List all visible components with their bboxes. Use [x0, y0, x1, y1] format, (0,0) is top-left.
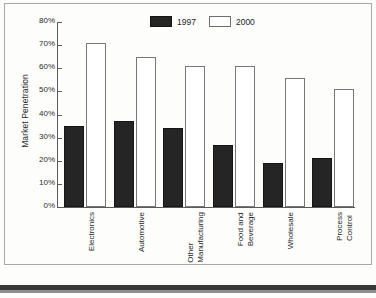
y-axis-tick: 80% [17, 22, 62, 23]
bar-2000-other-manufacturing [185, 66, 205, 207]
y-axis-tick-label: 0% [43, 201, 55, 210]
bar-group [163, 22, 205, 207]
plot-area: 80%70%60%50%40%30%20%10%0% ElectronicsAu… [57, 22, 355, 207]
y-axis-tick: 10% [17, 184, 62, 185]
x-axis-label-line: Control [345, 212, 355, 241]
y-axis-tick: 50% [17, 91, 62, 92]
x-axis-label-other-manufacturing: OtherManufacturing [186, 212, 205, 263]
bar-2000-automotive [136, 57, 156, 207]
y-axis-tick-mark [58, 68, 62, 69]
y-axis-tick-mark [58, 91, 62, 92]
y-axis-tick-mark [58, 45, 62, 46]
y-axis-tick-label: 50% [39, 85, 55, 94]
chart-figure: Market Penetration 1997 2000 80%70%60%50… [0, 0, 376, 298]
x-axis-label-line: Manufacturing [196, 212, 206, 263]
y-axis-tick-mark [58, 115, 62, 116]
bar-2000-food-and-beverage [235, 66, 255, 207]
bar-group [263, 22, 305, 207]
bar-group [213, 22, 255, 207]
x-axis-label-line: Food and [236, 212, 245, 246]
x-axis-label-electronics: Electronics [87, 212, 97, 251]
x-axis-label-line: Process [335, 212, 344, 241]
figure-border-left [4, 3, 5, 265]
x-axis-label-process-control: ProcessControl [335, 212, 354, 241]
y-axis-tick-label: 30% [39, 132, 55, 141]
y-axis-tick: 40% [17, 115, 62, 116]
y-axis-tick: 20% [17, 161, 62, 162]
x-axis-label-line: Beverage [245, 212, 255, 246]
y-axis-tick-label: 40% [39, 109, 55, 118]
x-axis-label-food-and-beverage: Food andBeverage [236, 212, 255, 246]
bar-1997-process-control [312, 158, 332, 207]
y-axis-tick-mark [58, 207, 62, 208]
y-axis-tick-label: 70% [39, 39, 55, 48]
bar-2000-process-control [334, 89, 354, 207]
bar-1997-food-and-beverage [213, 145, 233, 207]
figure-border-bottom [4, 264, 372, 265]
x-axis-label-line: Automotive [137, 212, 146, 252]
x-axis-label-line: Wholesale [286, 212, 295, 249]
figure-border-right [371, 3, 372, 265]
y-axis-tick-mark [58, 138, 62, 139]
y-axis-tick-label: 10% [39, 178, 55, 187]
y-axis-tick-label: 60% [39, 62, 55, 71]
bar-group [312, 22, 354, 207]
bar-1997-other-manufacturing [163, 128, 183, 207]
x-axis-label-wholesale: Wholesale [286, 212, 296, 249]
figure-border-top [4, 3, 372, 4]
bar-1997-wholesale [263, 163, 283, 207]
y-axis-tick: 0% [17, 207, 62, 208]
bar-group [64, 22, 106, 207]
bar-1997-automotive [114, 121, 134, 207]
y-axis-tick-mark [58, 184, 62, 185]
bar-2000-wholesale [285, 78, 305, 208]
x-axis-label-line: Other [186, 243, 195, 263]
x-axis-line [57, 207, 355, 208]
y-axis-tick-mark [58, 161, 62, 162]
x-axis-label-line: Electronics [87, 212, 96, 251]
page-edge-band-soft [0, 290, 376, 293]
y-axis-tick: 70% [17, 45, 62, 46]
bar-group [114, 22, 156, 207]
bar-2000-electronics [86, 43, 106, 207]
bar-1997-electronics [64, 126, 84, 207]
y-axis-tick-label: 20% [39, 155, 55, 164]
y-axis-tick-label: 80% [39, 16, 55, 25]
x-axis-label-automotive: Automotive [137, 212, 147, 252]
y-axis-tick: 60% [17, 68, 62, 69]
y-axis-tick: 30% [17, 138, 62, 139]
y-axis-tick-mark [58, 22, 62, 23]
